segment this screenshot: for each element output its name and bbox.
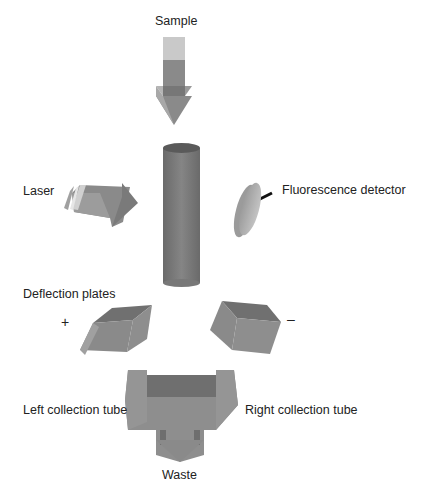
deflection-plate-left — [80, 305, 152, 355]
laser-arrow — [64, 183, 138, 227]
deflection-plates-label: Deflection plates — [23, 287, 115, 301]
flow-cytometer-diagram — [0, 0, 426, 497]
minus-label: – — [287, 311, 295, 327]
collection-arrows — [125, 370, 238, 462]
left-collection-tube-label: Left collection tube — [23, 403, 127, 417]
flow-cell — [163, 143, 200, 287]
sample-label: Sample — [155, 14, 197, 28]
deflection-plate-right — [210, 301, 281, 354]
sample-arrow — [156, 37, 192, 125]
plus-label: + — [61, 314, 69, 330]
laser-label: Laser — [23, 184, 54, 198]
right-collection-tube-label: Right collection tube — [245, 403, 358, 417]
waste-label: Waste — [162, 468, 197, 482]
fluorescence-detector — [229, 181, 272, 240]
detector-label: Fluorescence detector — [282, 183, 406, 197]
